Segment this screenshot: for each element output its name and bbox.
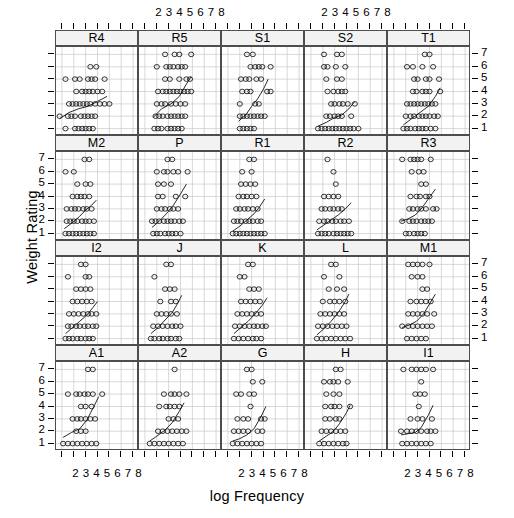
panel-strip-label-R1: R1 <box>221 135 304 151</box>
panel-plot-area-S1 <box>221 46 304 135</box>
panel-plot-area-I1 <box>387 361 470 450</box>
left-tick-ruler-row1 <box>48 46 55 135</box>
y-tick-label: 3 <box>33 201 45 213</box>
panel-strip-label-I1: I1 <box>387 345 470 361</box>
panel-strip-label-H: H <box>304 345 387 361</box>
panel-strip-label-K: K <box>221 240 304 256</box>
y-tick-label: 2 <box>33 213 45 225</box>
y-tick-label: 7 <box>481 256 493 268</box>
y-tick-label: 4 <box>481 84 493 96</box>
left-tick-ruler-row3 <box>48 256 55 345</box>
bottom-tick-ruler-col4 <box>304 450 387 457</box>
panel-strip-label-R5: R5 <box>138 30 221 46</box>
panel-plot-area-M1 <box>387 256 470 345</box>
panel-L: L <box>304 240 387 345</box>
lattice-scatterplot-figure: Weight Rating log Frequency 2345678 2345… <box>0 0 514 518</box>
y-tick-label: 1 <box>33 436 45 448</box>
panel-R1: R1 <box>221 135 304 240</box>
left-tick-ruler-row2 <box>48 151 55 240</box>
panel-K: K <box>221 240 304 345</box>
y-tick-label: 5 <box>481 281 493 293</box>
y-tick-label: 2 <box>481 108 493 120</box>
panel-plot-area-A1 <box>55 361 138 450</box>
bottom-tick-ruler-col2 <box>138 450 221 457</box>
panel-strip-label-T1: T1 <box>387 30 470 46</box>
panel-strip-label-L: L <box>304 240 387 256</box>
right-tick-ruler-row4 <box>471 361 478 450</box>
bottom-tick-label-row: 2345678 2345678 2345678 <box>0 467 514 481</box>
y-tick-label: 3 <box>481 96 493 108</box>
panel-R2: R2 <box>304 135 387 240</box>
top-tick-ruler-col2 <box>138 23 221 30</box>
y-tick-label: 6 <box>481 59 493 71</box>
y-tick-label: 1 <box>481 121 493 133</box>
right-tick-ruler-row2 <box>471 151 478 240</box>
top-tick-label-row: 2345678 2345678 <box>0 6 514 20</box>
top-tick-group-col2: 2345678 <box>148 6 232 18</box>
panel-strip-label-A2: A2 <box>138 345 221 361</box>
panel-strip-label-M2: M2 <box>55 135 138 151</box>
panel-I2: I2 <box>55 240 138 345</box>
panel-plot-area-A2 <box>138 361 221 450</box>
panel-plot-area-T1 <box>387 46 470 135</box>
y-tick-label: 4 <box>33 399 45 411</box>
panel-strip-label-P: P <box>138 135 221 151</box>
panel-plot-area-P <box>138 151 221 240</box>
panel-strip-label-S1: S1 <box>221 30 304 46</box>
y-tick-label: 6 <box>481 269 493 281</box>
y-tick-label: 7 <box>33 361 45 373</box>
panel-plot-area-M2 <box>55 151 138 240</box>
panel-plot-area-R2 <box>304 151 387 240</box>
panel-plot-area-K <box>221 256 304 345</box>
right-tick-ruler-row1 <box>471 46 478 135</box>
top-tick-ruler-col3 <box>221 23 304 30</box>
y-tick-label: 5 <box>33 176 45 188</box>
panel-R5: R5 <box>138 30 221 135</box>
panel-plot-area-I2 <box>55 256 138 345</box>
panel-strip-label-R2: R2 <box>304 135 387 151</box>
y-tick-label: 6 <box>33 374 45 386</box>
y-tick-label: 5 <box>33 386 45 398</box>
panel-plot-area-H <box>304 361 387 450</box>
top-tick-ruler-col5 <box>387 23 470 30</box>
panel-strip-label-G: G <box>221 345 304 361</box>
panel-strip-label-R3: R3 <box>387 135 470 151</box>
panel-plot-area-R1 <box>221 151 304 240</box>
y-tick-label: 4 <box>33 189 45 201</box>
bottom-tick-group-col1: 2345678 <box>65 467 149 479</box>
bottom-tick-ruler-col3 <box>221 450 304 457</box>
y-tick-label: 1 <box>33 226 45 238</box>
panel-plot-area-S2 <box>304 46 387 135</box>
top-tick-ruler-col4 <box>304 23 387 30</box>
panel-A1: A1 <box>55 345 138 450</box>
y-tick-label: 1 <box>481 331 493 343</box>
panel-plot-area-R5 <box>138 46 221 135</box>
bottom-tick-ruler-col5 <box>387 450 470 457</box>
top-tick-ruler-col1 <box>55 23 138 30</box>
panel-M1: M1 <box>387 240 470 345</box>
y-tick-label: 7 <box>481 46 493 58</box>
panel-strip-label-I2: I2 <box>55 240 138 256</box>
panel-J: J <box>138 240 221 345</box>
bottom-tick-group-col5: 2345678 <box>397 467 481 479</box>
panel-H: H <box>304 345 387 450</box>
bottom-tick-group-col3: 2345678 <box>231 467 315 479</box>
panel-strip-label-M1: M1 <box>387 240 470 256</box>
y-tick-label: 7 <box>33 151 45 163</box>
y-tick-label: 5 <box>481 71 493 83</box>
y-tick-label: 3 <box>481 306 493 318</box>
x-axis-title: log Frequency <box>0 488 514 504</box>
top-tick-group-col4: 2345678 <box>314 6 398 18</box>
panel-P: P <box>138 135 221 240</box>
left-tick-ruler-row4 <box>48 361 55 450</box>
panel-strip-label-A1: A1 <box>55 345 138 361</box>
panel-plot-area-G <box>221 361 304 450</box>
panel-S2: S2 <box>304 30 387 135</box>
panel-S1: S1 <box>221 30 304 135</box>
y-tick-label: 3 <box>33 411 45 423</box>
y-tick-label: 2 <box>481 318 493 330</box>
panel-G: G <box>221 345 304 450</box>
panel-plot-area-R4 <box>55 46 138 135</box>
right-tick-ruler-row3 <box>471 256 478 345</box>
panel-plot-area-L <box>304 256 387 345</box>
